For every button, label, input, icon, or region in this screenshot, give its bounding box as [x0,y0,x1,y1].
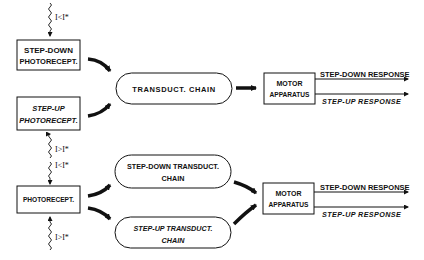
curved-arrow-icon [88,104,110,116]
motor-apparatus-line2: APPARATUS [269,91,310,98]
step-down-photoreceptor-line2: PHOTORECEPT. [19,57,77,66]
light-stimulus-wave-icon [49,162,52,184]
step-down-photoreceptor-line1: STEP-DOWN [24,46,73,55]
step-down-chain-line1: STEP-DOWN TRANSDUCT. [127,162,219,171]
motor-apparatus-line2: APPARATUS [268,201,309,208]
step-down-chain-line2: CHAIN [162,174,185,183]
curved-arrow-icon [234,205,256,224]
step-down-photoreceptor-box: STEP-DOWN PHOTORECEPT. [17,40,80,70]
output-label-step-up: STEP-UP RESPONSE [322,97,401,106]
stimulus-label-top: I<I* [55,13,69,22]
output-label-step-up: STEP-UP RESPONSE [322,210,401,219]
step-up-photoreceptor-line1: STEP-UP [32,104,66,113]
light-stimulus-wave-icon [49,3,52,36]
step-up-chain-line1: STEP-UP TRANSDUCT. [133,224,212,233]
motor-apparatus-box-top: MOTOR APPARATUS [264,73,315,104]
light-stimulus-wave-icon [49,217,52,250]
stimulus-label-step-up: I>I* [55,145,69,154]
step-up-transduction-chain-pill: STEP-UP TRANSDUCT. CHAIN [115,217,231,248]
transduction-chain-pill: TRANSDUCT. CHAIN [116,73,232,104]
stimulus-label-lower: I>I* [55,233,69,242]
photoreceptor-models-diagram: I<I* STEP-DOWN PHOTORECEPT. STEP-UP PHOT… [0,0,424,260]
curved-arrow-icon [88,185,110,196]
output-label-step-down: STEP-DOWN RESPONSE [320,183,410,192]
stimulus-label-upper: I<I* [55,161,69,170]
step-up-photoreceptor-line2: PHOTORECEPT. [19,116,77,125]
motor-apparatus-line1: MOTOR [277,80,303,87]
curved-arrow-icon [234,182,256,193]
motor-apparatus-line1: MOTOR [276,190,302,197]
photoreceptor-box: PHOTORECEPT. [17,186,80,213]
output-label-step-down: STEP-DOWN RESPONSE [320,70,410,79]
light-stimulus-wave-icon [49,134,52,158]
transduction-chain-label: TRANSDUCT. CHAIN [132,85,215,94]
motor-apparatus-box-bottom: MOTOR APPARATUS [263,183,314,214]
top-model: I<I* STEP-DOWN PHOTORECEPT. STEP-UP PHOT… [17,3,410,130]
step-up-photoreceptor-box: STEP-UP PHOTORECEPT. [17,97,80,130]
step-up-chain-line2: CHAIN [162,236,186,245]
bottom-model: I>I* I<I* PHOTORECEPT. I>I* STEP-DOWN TR… [17,134,410,250]
step-down-transduction-chain-pill: STEP-DOWN TRANSDUCT. CHAIN [115,155,231,188]
curved-arrow-icon [88,208,110,219]
curved-arrow-icon [88,59,110,71]
photoreceptor-label: PHOTORECEPT. [23,196,74,203]
